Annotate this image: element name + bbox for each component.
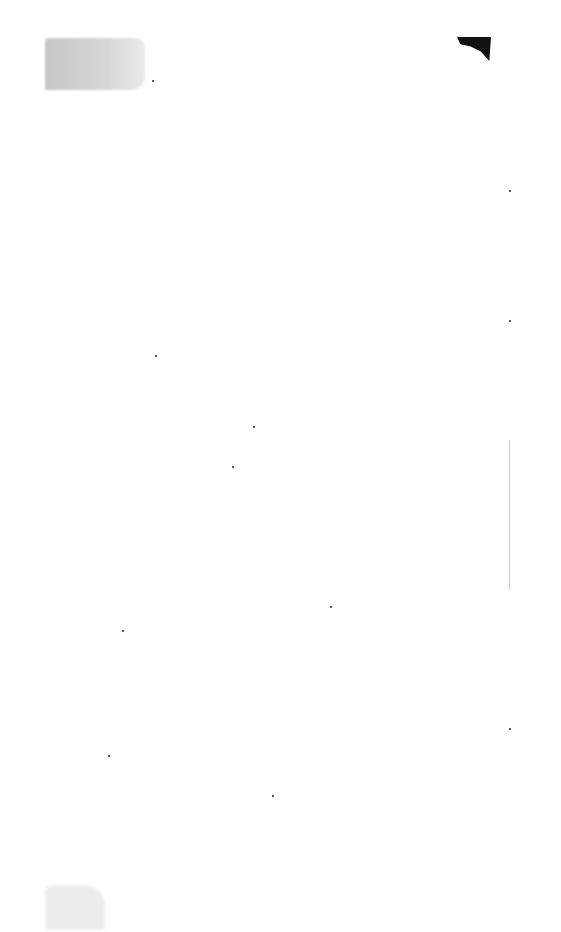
speck [272, 795, 274, 797]
scan-smudge-bottom-left [45, 885, 105, 930]
speck [253, 426, 255, 428]
speck [122, 630, 124, 632]
page-edge-line [509, 440, 510, 590]
speck [155, 355, 157, 357]
speck [509, 728, 511, 730]
speck [152, 80, 154, 82]
speck [232, 466, 234, 468]
speck [509, 320, 511, 322]
scan-smudge-top-left [45, 38, 145, 90]
speck [330, 606, 332, 608]
speck [509, 190, 511, 192]
speck [108, 755, 110, 757]
ink-blot-top-right [457, 37, 491, 61]
